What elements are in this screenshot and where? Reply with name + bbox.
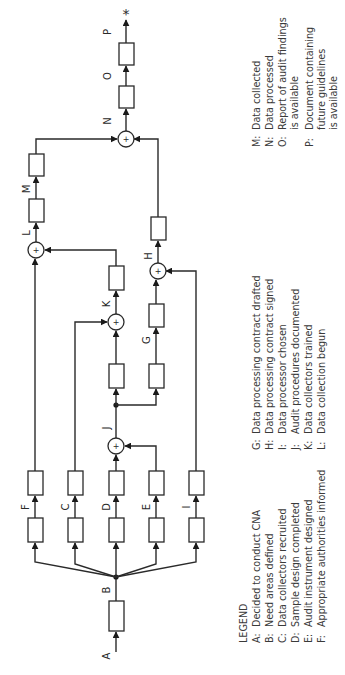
activity-box-mn [29,154,44,176]
edge-i-h [166,271,196,471]
sum-sign-n: + [123,135,130,144]
node-label-p: P [102,29,113,35]
legend-item: C:Data collectors recruited [277,508,288,643]
node-label-f: F [20,504,31,510]
node-label-e: E [141,504,152,510]
legend-item: D:Sample design completed [290,502,301,643]
activity-box-hn [151,217,166,240]
terminal-asterisk: * [123,6,130,22]
legend-item-cont: is available [289,76,300,130]
legend-item: I:Data processor chosen [277,324,288,450]
sum-sign-h: + [155,267,162,276]
edge-b-c [75,543,116,577]
legend-item: M:Data collected [251,61,262,147]
sum-sign-k: + [113,318,120,327]
node-label-g: G [141,336,152,344]
activity-box-a-b [109,601,124,631]
legend-item: G:Data processing contract drafted [251,276,262,450]
legend-item: N:Data processed [264,55,275,147]
activity-box-g2 [149,304,164,327]
edge-h-n [134,139,158,217]
sum-sign-l: + [33,246,40,255]
legend-item: P:Document containing [304,27,315,147]
legend-col-2: G:Data processing contract drafted H:Dat… [251,276,327,451]
edge-m-n [36,139,117,154]
edge-c-k [75,322,107,471]
edge-j-g-box [116,389,156,405]
legend: LEGEND A:Decided to conduct CNA B:Need a… [238,17,339,643]
legend-item: H:Data processing contract signed [264,279,275,450]
activity-box-lm [29,199,44,222]
activity-box-f1 [28,518,43,542]
legend-item: L:Data collection begun [316,329,327,450]
activity-box-e1 [149,518,164,542]
network-diagram: + + + + + A B F C D E I J K G H L M [0,0,345,675]
node-label-l: L [21,230,32,236]
node-label-n: N [102,117,113,124]
activity-box-d1 [109,518,124,542]
legend-title: LEGEND [238,604,249,643]
legend-item-cont: future guidelines [316,49,327,130]
node-label-d: D [101,503,112,511]
edge-b-e [116,543,156,577]
node-label-h: H [143,252,154,260]
activity-box-d2 [109,471,124,495]
node-label-k: K [101,300,112,307]
activity-box-c1 [68,518,83,542]
edge-k-l [45,250,116,266]
legend-item: J:Audit procedures documented [290,289,301,451]
node-label-a: A [101,652,112,659]
node-label-j: J [101,427,112,431]
legend-item: A:Decided to conduct CNA [251,510,262,643]
activity-box-op [119,43,134,65]
sum-sign-j: + [113,442,120,451]
activity-box-jk [109,364,124,388]
legend-item: E:Audit instrument designed [303,499,314,643]
activity-box-i2 [189,471,204,495]
legend-item: B:Need areas defined [264,533,275,643]
legend-col-3: M:Data collected N:Data processed O:Repo… [251,17,339,147]
activity-box-i1 [189,518,204,542]
node-label-o: O [102,72,113,80]
activity-box-no [119,86,134,108]
node-label-m: M [21,185,32,194]
edge-e-j [125,446,156,471]
legend-item: F:Appropriate authorities informed [316,470,327,643]
activity-box-c2 [68,471,83,495]
legend-item: O:Report of audit findings [277,17,288,147]
node-label-b: B [101,586,112,593]
node-label-c: C [60,503,71,510]
activity-box-f2 [28,471,43,495]
legend-item-cont: is available [328,76,339,130]
activity-box-g1 [149,364,164,388]
legend-item: K:Data collectors trained [303,324,314,450]
activity-box-e2 [149,471,164,495]
activity-box-kl [109,266,124,290]
node-label-i: I [181,506,192,509]
legend-col-1: A:Decided to conduct CNA B:Need areas de… [251,470,327,643]
